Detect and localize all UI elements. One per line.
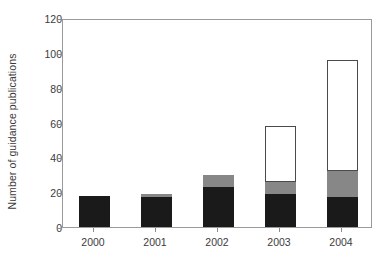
y-tick-label: 80 — [16, 83, 62, 95]
bar-group[interactable] — [327, 18, 358, 227]
bar-group[interactable] — [79, 18, 110, 227]
x-tick-label: 2004 — [329, 236, 352, 248]
bar-group[interactable] — [141, 18, 172, 227]
y-tick-label: 100 — [16, 48, 62, 60]
x-tick-label: 2000 — [81, 236, 104, 248]
bar-segment-black[interactable] — [203, 187, 234, 227]
y-tick-label: 20 — [16, 187, 62, 199]
bar-segment-black[interactable] — [265, 194, 296, 227]
y-axis-tick-labels: 020406080100120 — [0, 0, 62, 263]
x-tick-mark — [155, 228, 156, 232]
x-tick-mark — [341, 228, 342, 232]
x-tick-mark — [279, 228, 280, 232]
bar-segment-black[interactable] — [327, 197, 358, 227]
bar-segment-gray[interactable] — [265, 182, 296, 194]
x-tick-mark — [93, 228, 94, 232]
bar-group[interactable] — [265, 18, 296, 227]
x-tick-mark — [217, 228, 218, 232]
bar-segment-gray[interactable] — [141, 194, 172, 197]
plot-area — [62, 19, 372, 228]
y-tick-label: 120 — [16, 13, 62, 25]
bar-group[interactable] — [203, 18, 234, 227]
bar-segment-black[interactable] — [79, 196, 110, 227]
bar-segment-gray[interactable] — [327, 171, 358, 197]
bar-segment-black[interactable] — [141, 197, 172, 227]
y-tick-label: 40 — [16, 152, 62, 164]
bar-segment-gray[interactable] — [203, 175, 234, 187]
x-tick-label: 2002 — [205, 236, 228, 248]
y-tick-mark — [58, 228, 62, 229]
x-tick-label: 2001 — [143, 236, 166, 248]
y-tick-label: 0 — [16, 222, 62, 234]
plot-bars-container — [63, 20, 371, 227]
bar-segment-white[interactable] — [265, 126, 296, 182]
chart-figure: Number of guidance publications 02040608… — [0, 0, 388, 263]
x-tick-label: 2003 — [267, 236, 290, 248]
y-tick-label: 60 — [16, 118, 62, 130]
bar-segment-white[interactable] — [327, 60, 358, 171]
